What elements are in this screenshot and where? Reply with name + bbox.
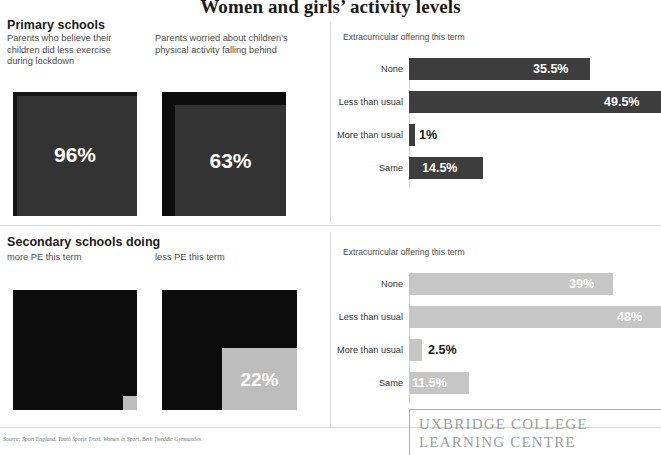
chart-1-bar-more xyxy=(409,124,415,146)
infographic-page: Women and girls’ activity levels Primary… xyxy=(0,0,661,455)
square-outer-fill xyxy=(13,290,137,410)
chart-1-row-same: Same 14.5% xyxy=(409,157,661,179)
library-stamp-line-2: LEARNING CENTRE xyxy=(419,434,576,451)
chart-2-value-more: 2.5% xyxy=(428,343,457,357)
primary-extracurricular-chart: Extracurricular offering this term None … xyxy=(340,25,661,215)
chart-2-bar-more xyxy=(409,339,422,361)
chart-2-row-more: More than usual 2.5% xyxy=(409,339,661,361)
chart-2-value-less: 48% xyxy=(617,310,642,324)
chart-2-category-less: Less than usual xyxy=(339,312,403,322)
chart-1-value-same: 14.5% xyxy=(422,161,457,175)
secondary-schools-heading: Secondary schools doing xyxy=(7,235,160,249)
secondary-figure-1-square: 3% xyxy=(13,290,137,410)
library-stamp-line-1: UXBRIDGE COLLEGE xyxy=(419,416,588,433)
chart-1-category-more: More than usual xyxy=(337,130,403,140)
chart-1-row-more: More than usual 1% xyxy=(409,124,661,146)
library-stamp: UXBRIDGE COLLEGE LEARNING CENTRE xyxy=(409,409,661,455)
chart-1-category-same: Same xyxy=(379,163,403,173)
secondary-extracurricular-chart: Extracurricular offering this term None … xyxy=(340,240,661,430)
secondary-figure-1-caption: more PE this term xyxy=(7,252,137,264)
chart-2-value-same: 11.5% xyxy=(412,376,447,390)
chart-1-category-less: Less than usual xyxy=(339,97,403,107)
secondary-figure-2-value: 22% xyxy=(222,348,297,410)
chart-2-category-none: None xyxy=(381,279,403,289)
primary-figure-2-value: 63% xyxy=(175,105,286,216)
horizontal-divider xyxy=(0,225,661,226)
secondary-figure-2-caption: less PE this term xyxy=(155,252,295,264)
chart-2-row-none: None 39% xyxy=(409,273,661,295)
chart-1-value-more: 1% xyxy=(419,128,437,142)
chart-2-category-more: More than usual xyxy=(337,345,403,355)
chart-2-title: Extracurricular offering this term xyxy=(343,247,465,257)
chart-2-category-same: Same xyxy=(379,378,403,388)
chart-1-title: Extracurricular offering this term xyxy=(343,32,465,42)
primary-figure-1-caption: Parents who believe their children did l… xyxy=(7,33,137,68)
vertical-divider-bottom xyxy=(330,232,331,427)
chart-1-value-less: 49.5% xyxy=(604,95,639,109)
vertical-divider-top xyxy=(330,22,331,222)
page-title: Women and girls’ activity levels xyxy=(0,0,661,18)
chart-2-row-same: Same 11.5% xyxy=(409,372,661,394)
primary-figure-1-value: 96% xyxy=(13,92,137,216)
square-inner-fill xyxy=(123,396,137,410)
chart-1-row-less: Less than usual 49.5% xyxy=(409,91,661,113)
secondary-figure-2-square: 22% xyxy=(162,290,297,410)
chart-1-value-none: 35.5% xyxy=(533,62,568,76)
chart-1-row-none: None 35.5% xyxy=(409,58,661,80)
source-note: Source: Sport England, Youth Sports Trus… xyxy=(3,436,201,442)
primary-figure-2-caption: Parents worried about children’s physica… xyxy=(155,33,295,56)
primary-schools-heading: Primary schools xyxy=(7,18,105,32)
primary-figure-1-square: 96% xyxy=(13,92,137,216)
chart-2-value-none: 39% xyxy=(569,277,594,291)
chart-2-row-less: Less than usual 48% xyxy=(409,306,661,328)
primary-figure-2-square: 63% xyxy=(162,92,286,216)
chart-1-category-none: None xyxy=(381,64,403,74)
